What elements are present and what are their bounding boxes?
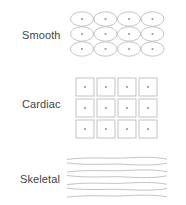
skeletal-fiber [67, 195, 167, 197]
cardiac-cell [76, 78, 94, 96]
skeletal-label: Skeletal [20, 173, 60, 185]
cardiac-cell [139, 99, 157, 117]
smooth-cell [141, 27, 164, 41]
smooth-label: Smooth [22, 29, 61, 41]
smooth-cell [94, 27, 117, 41]
smooth-cell [71, 27, 94, 41]
cardiac-cell [97, 120, 115, 138]
skeletal-fiber [67, 157, 167, 159]
cardiac-cell [118, 120, 136, 138]
cardiac-cell [118, 99, 136, 117]
smooth-cell [94, 12, 117, 26]
smooth-cell [141, 12, 164, 26]
skeletal-fiber [67, 188, 167, 190]
cardiac-label: Cardiac [22, 98, 61, 110]
smooth-muscle-cells [68, 10, 168, 60]
smooth-cell [94, 42, 117, 56]
skeletal-fiber [67, 163, 167, 165]
cardiac-muscle-cells [74, 76, 164, 142]
cardiac-cell [139, 78, 157, 96]
cardiac-cell [118, 78, 136, 96]
skeletal-fiber [67, 176, 167, 178]
skeletal-fiber [67, 170, 167, 172]
skeletal-muscle-fibers [64, 154, 174, 204]
smooth-cell [118, 27, 141, 41]
cardiac-cell [76, 99, 94, 117]
skeletal-fiber [67, 182, 167, 184]
cardiac-cell [97, 78, 115, 96]
cardiac-cell [139, 120, 157, 138]
cardiac-cell [97, 99, 115, 117]
cardiac-cell [76, 120, 94, 138]
smooth-cell [118, 12, 141, 26]
smooth-cell [141, 42, 164, 56]
smooth-cell [71, 12, 94, 26]
smooth-cell [71, 42, 94, 56]
smooth-cell [118, 42, 141, 56]
